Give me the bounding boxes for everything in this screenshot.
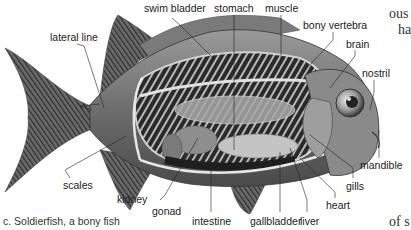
label-bony-vertebra: bony vertebra	[303, 20, 367, 31]
label-intestine: intestine	[192, 216, 231, 227]
adjacent-text-fragment-2: ha	[398, 22, 411, 38]
adjacent-text-fragment-1: ous	[389, 6, 408, 22]
label-gallbladder: gallbladder	[250, 216, 301, 227]
label-gonad: gonad	[152, 206, 181, 217]
stomach-organ	[218, 134, 298, 158]
label-muscle: muscle	[265, 3, 298, 14]
label-stomach: stomach	[214, 3, 254, 14]
label-swim-bladder: swim bladder	[144, 3, 206, 14]
label-liver: liver	[300, 216, 319, 227]
swim-bladder-organ	[175, 96, 295, 124]
label-heart: heart	[326, 200, 350, 211]
caudal-fin	[5, 48, 95, 192]
figure-caption: c. Soldierfish, a bony fish	[3, 215, 120, 227]
label-kidney: kidney	[117, 194, 147, 205]
label-brain: brain	[346, 39, 369, 50]
body-cavity-cutaway	[134, 52, 330, 172]
label-scales: scales	[63, 180, 93, 191]
adjacent-text-fragment-3: of s	[389, 214, 410, 230]
label-nostril: nostril	[362, 68, 390, 79]
label-lateral-line: lateral line	[50, 32, 98, 43]
label-gills: gills	[346, 181, 364, 192]
label-mandible: mandible	[360, 160, 403, 171]
